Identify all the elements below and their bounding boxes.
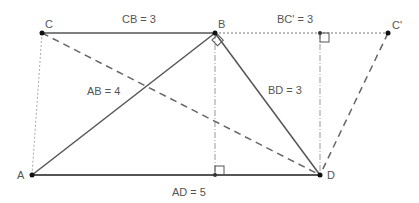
segment-ca-dotted — [32, 33, 42, 175]
point-b — [213, 31, 218, 36]
label-point-c-prime: C' — [392, 19, 402, 31]
label-ab-length: AB = 4 — [87, 85, 120, 97]
segment-bd — [215, 33, 320, 175]
segment-c-prime-d-dashed — [320, 33, 388, 175]
label-point-a: A — [17, 169, 25, 181]
label-ad-length: AD = 5 — [172, 186, 206, 198]
point-h-bc — [318, 31, 322, 35]
segment-cd-dashed — [42, 33, 320, 175]
label-bd-length: BD = 3 — [268, 84, 302, 96]
point-h-ad — [213, 173, 217, 177]
geometry-diagram: A B C C' D CB = 3 BC' = 3 AB = 4 BD = 3 … — [0, 0, 419, 203]
label-bc-prime-length: BC' = 3 — [277, 13, 313, 25]
label-cb-length: CB = 3 — [122, 13, 156, 25]
point-c-prime — [386, 31, 391, 36]
point-d — [318, 173, 323, 178]
point-c — [40, 31, 45, 36]
point-a — [30, 173, 35, 178]
label-point-d: D — [327, 169, 335, 181]
label-point-b: B — [218, 18, 225, 30]
label-point-c: C — [45, 18, 53, 30]
segment-ab — [32, 33, 215, 175]
